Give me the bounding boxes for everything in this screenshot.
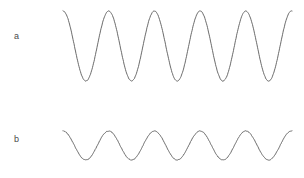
waveform-canvas (0, 0, 304, 178)
waveform-trace-b (63, 131, 292, 161)
waveform-trace-a (63, 11, 292, 81)
waveform-figure: a b (0, 0, 304, 178)
